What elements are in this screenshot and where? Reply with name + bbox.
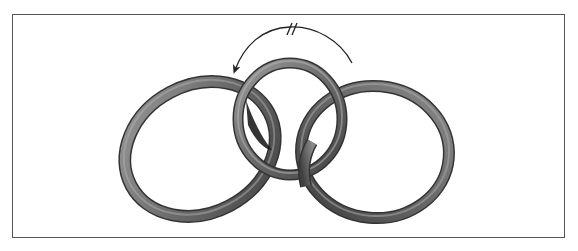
borromean-rings-diagram — [0, 0, 578, 251]
middle-ring — [238, 61, 342, 175]
double-slash-mark — [287, 23, 297, 35]
right-ring — [296, 78, 455, 224]
